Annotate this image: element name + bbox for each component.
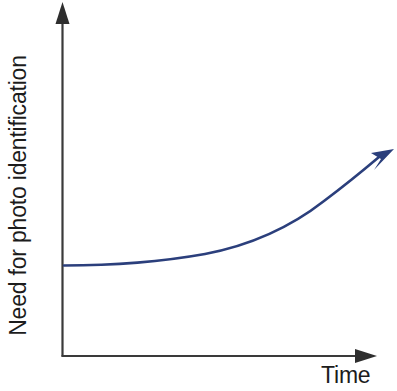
chart-figure: Need for photo identification Time bbox=[0, 0, 397, 391]
y-axis-arrow-icon bbox=[56, 2, 70, 24]
trend-curve bbox=[64, 157, 379, 266]
chart-canvas bbox=[0, 0, 397, 391]
x-axis-label: Time bbox=[321, 362, 370, 389]
x-axis-arrow-icon bbox=[355, 349, 377, 363]
